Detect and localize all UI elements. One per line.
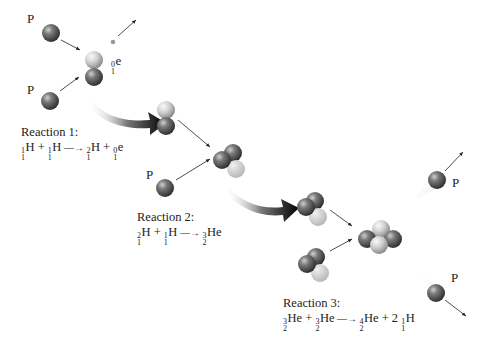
nuclide: 11H (21, 140, 35, 154)
nuclide: 32He (315, 311, 334, 325)
reaction-label: Reaction 3: (283, 296, 415, 311)
proton-sphere (42, 24, 60, 42)
proton-sphere (85, 68, 103, 86)
proton-label: P (451, 271, 458, 284)
nuclide: 21H (86, 140, 100, 154)
plus-sign: + (151, 225, 164, 239)
reaction-label: Reaction 1: (21, 125, 123, 140)
proton-sphere (157, 117, 175, 135)
plus-sign: + (302, 311, 315, 325)
reaction-arrow: —→ (177, 227, 202, 238)
reaction-equation: 11H + 11H —→ 21H + 01e (21, 140, 123, 161)
nuclide: 01e (113, 140, 123, 154)
big-arrow-2 (224, 186, 299, 222)
proton-sphere (428, 171, 446, 189)
helium3-cluster (213, 151, 231, 169)
proton-label: P (146, 168, 153, 181)
nuclide: 2 11H (392, 311, 415, 325)
proton-sphere (156, 179, 174, 197)
helium3-cluster (298, 255, 316, 273)
nuclide: 11H (164, 225, 178, 239)
diagram-graphics (0, 0, 490, 339)
plus-sign: + (379, 311, 392, 325)
plus-sign: + (35, 140, 48, 154)
proton-label: P (452, 176, 459, 189)
reaction-label: Reaction 2: (137, 210, 221, 225)
proton-label: P (27, 12, 34, 25)
nuclide: 32He (283, 311, 302, 325)
reaction-arrow: —→ (61, 142, 86, 153)
nuclide: 42He (359, 311, 378, 325)
nuclide: 21H (137, 225, 151, 239)
reaction-arrow: —→ (334, 313, 359, 324)
positron-label: 01e (111, 54, 121, 75)
helium4-cluster (370, 236, 388, 254)
proton-label: P (27, 83, 34, 96)
nuclide: 11H (48, 140, 62, 154)
reaction-equation: 32He + 32He —→ 42He + 2 11H (283, 311, 415, 332)
reaction-1: Reaction 1: 11H + 11H —→ 21H + 01e (21, 125, 123, 161)
proton-sphere (427, 284, 445, 302)
reaction-equation: 21H + 11H —→ 32He (137, 225, 221, 246)
helium3-cluster (297, 198, 315, 216)
neutron-sphere (85, 51, 103, 69)
neutron-sphere (157, 101, 175, 119)
positron-dot (111, 40, 116, 45)
reaction-3: Reaction 3: 32He + 32He —→ 42He + 2 11H (283, 296, 415, 332)
reaction-2: Reaction 2: 21H + 11H —→ 32He (137, 210, 221, 246)
nuclide: 32He (202, 225, 221, 239)
fusion-diagram: P P 01e P P P Reaction 1: 11H + 11H —→ 2… (0, 0, 490, 339)
plus-sign: + (100, 140, 113, 154)
proton-sphere (41, 92, 59, 110)
